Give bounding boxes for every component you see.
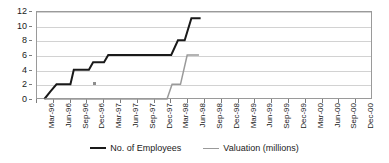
y-axis: 024681012 <box>0 11 32 99</box>
y-axis-tick-mark <box>29 70 32 71</box>
y-axis-tick-mark <box>29 11 32 12</box>
y-axis-tick-label: 8 <box>22 36 27 45</box>
y-axis-tick-mark <box>29 26 32 27</box>
y-axis-tick-label: 12 <box>17 7 27 16</box>
chart-legend: No. of EmployeesValuation (millions) <box>0 140 389 156</box>
x-axis-tick-label: Mar-99 <box>250 103 258 128</box>
stray-marker-icon <box>93 82 96 85</box>
x-axis-tick-label: Dec-98 <box>233 103 241 129</box>
y-axis-tick-mark <box>29 99 32 100</box>
x-axis-tick-label: Jun-96 <box>65 103 73 127</box>
x-axis-tick-label: Sep-99 <box>283 103 291 129</box>
x-axis-tick-label: Jun-98 <box>199 103 207 127</box>
legend-line-swatch <box>203 148 219 149</box>
chart-container: 024681012 Mar-96Jun-96Sep-96Dec-96Mar-97… <box>0 0 389 163</box>
x-axis-tick-label: Jun-99 <box>266 103 274 127</box>
x-axis-tick-label: Mar-97 <box>115 103 123 128</box>
legend-entry[interactable]: No. of Employees <box>90 143 181 153</box>
legend-line-swatch <box>90 147 106 149</box>
x-axis-labels: Mar-96Jun-96Sep-96Dec-96Mar-97Jun-97Sep-… <box>36 103 372 139</box>
y-axis-tick-label: 6 <box>22 51 27 60</box>
y-axis-tick-label: 4 <box>22 65 27 74</box>
x-axis-tick-label: Sep-98 <box>216 103 224 129</box>
y-axis-tick-mark <box>29 55 32 56</box>
y-axis-tick-label: 0 <box>22 95 27 104</box>
legend-label: No. of Employees <box>110 143 181 153</box>
series-line-valuation <box>44 55 199 99</box>
series-layer <box>36 11 372 99</box>
x-axis-tick-label: Mar-00 <box>317 103 325 128</box>
y-axis-tick-label: 10 <box>17 21 27 30</box>
x-axis-tick-label: Mar-96 <box>48 103 56 128</box>
x-axis-tick-label: Jun-97 <box>132 103 140 127</box>
series-line-no-of-employees <box>44 18 200 99</box>
x-axis-tick-label: Dec-99 <box>300 103 308 129</box>
x-axis-tick-label: Sep-97 <box>149 103 157 129</box>
x-axis-tick-label: Sep-00 <box>350 103 358 129</box>
y-axis-tick-mark <box>29 40 32 41</box>
x-axis-tick-label: Jun-00 <box>334 103 342 127</box>
x-axis-tick-label: Sep-96 <box>82 103 90 129</box>
x-axis-tick-label: Dec-96 <box>98 103 106 129</box>
y-axis-tick-label: 2 <box>22 80 27 89</box>
legend-entry[interactable]: Valuation (millions) <box>203 143 298 153</box>
x-axis-tick-label: Dec-00 <box>367 103 375 129</box>
y-axis-tick-mark <box>29 84 32 85</box>
x-axis-tick-label: Mar-98 <box>182 103 190 128</box>
legend-label: Valuation (millions) <box>223 143 298 153</box>
x-axis-tick-label: Dec-97 <box>166 103 174 129</box>
